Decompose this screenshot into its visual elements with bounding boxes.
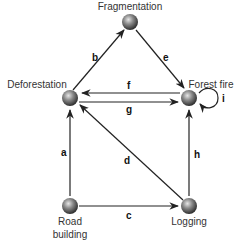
node-forest-fire: [181, 90, 197, 106]
edge-label-f: f: [127, 80, 131, 91]
edge-label-a: a: [61, 147, 67, 158]
node-deforestation: [62, 90, 78, 106]
edge-e: [136, 30, 184, 88]
edge-label-c: c: [126, 210, 132, 221]
edge-label-h: h: [194, 149, 200, 160]
node-road-building: [62, 198, 78, 214]
edge-label-b: b: [92, 52, 98, 63]
label-fragmentation: Fragmentation: [98, 1, 162, 12]
label-road-building-line1: Road: [58, 216, 82, 227]
label-road-building-line2: building: [53, 229, 87, 240]
edge-label-i: i: [222, 93, 225, 104]
node-logging: [181, 198, 197, 214]
edge-b: [73, 30, 124, 90]
edge-i-self-loop: [199, 88, 218, 107]
edge-label-g: g: [126, 104, 132, 115]
causal-diagram: a b c d e f g h i Fragmentation Deforest…: [0, 0, 237, 245]
edge-label-e: e: [163, 52, 169, 63]
label-deforestation: Deforestation: [7, 79, 66, 90]
edge-label-d: d: [124, 155, 130, 166]
label-forest-fire: Forest fire: [188, 79, 233, 90]
edge-d: [80, 105, 183, 200]
node-fragmentation: [122, 14, 138, 30]
label-logging: Logging: [171, 216, 207, 227]
